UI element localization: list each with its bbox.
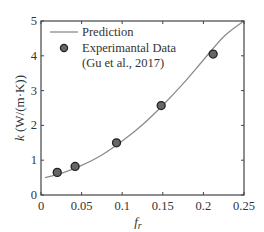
x-tick-label: 0 [38, 199, 44, 213]
x-tick-label: 0.1 [114, 199, 130, 213]
x-tick-label: 0.25 [233, 199, 255, 213]
x-tick-label: 0.05 [71, 199, 93, 213]
x-axis-label: fr [134, 214, 142, 231]
legend-label-citation: (Gu et al., 2017) [82, 56, 164, 70]
legend: Prediction Experimantal Data (Gu et al.,… [50, 25, 177, 70]
x-tick-label: 0.2 [196, 199, 212, 213]
x-tick-label: 0.15 [152, 199, 174, 213]
y-tick-label: 2 [31, 118, 37, 132]
experimental-data-point [53, 168, 61, 176]
legend-label-prediction: Prediction [82, 25, 134, 39]
y-axis-label: k (W/(m·K)) [12, 75, 27, 141]
y-tick-label: 5 [31, 14, 37, 28]
experimental-data-point [209, 50, 217, 58]
y-tick-label: 3 [31, 84, 37, 98]
experimental-data-point [157, 102, 165, 110]
y-tick-label: 1 [31, 153, 37, 167]
experimental-data-point [71, 162, 79, 170]
chart: 00.050.10.150.20.25012345 Prediction Exp… [0, 0, 264, 232]
legend-marker-icon [60, 44, 67, 51]
y-tick-label: 0 [31, 188, 37, 202]
legend-label-experimental: Experimantal Data [82, 41, 177, 55]
y-tick-label: 4 [31, 49, 38, 63]
experimental-data-point [113, 139, 121, 147]
